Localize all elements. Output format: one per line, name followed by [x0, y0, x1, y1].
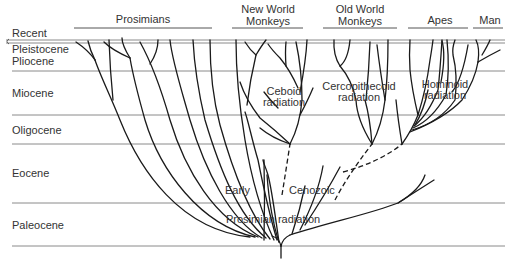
group-prosimians-label: Prosimians	[116, 13, 171, 25]
primate-phylogeny-diagram: Recent Pleistocene Pliocene Miocene Olig…	[0, 0, 511, 268]
cenozoic-label: Cenozoic	[289, 184, 335, 196]
group-headers: Prosimians New World Monkeys Old World M…	[74, 3, 503, 28]
epoch-pleistocene: Pleistocene	[12, 43, 69, 55]
group-owm-label-1: Old World	[336, 3, 385, 15]
bracket-mark	[7, 39, 9, 44]
epoch-labels: Recent Pleistocene Pliocene Miocene Olig…	[12, 27, 69, 231]
cercopithecoid-label-2: radiation	[338, 91, 380, 103]
epoch-oligocene: Oligocene	[12, 124, 62, 136]
ceboid-label-2: radiation	[263, 96, 305, 108]
group-man-label: Man	[479, 14, 500, 26]
hominoid-label-2: radiation	[424, 89, 466, 101]
epoch-miocene: Miocene	[12, 87, 54, 99]
group-nwm-label-2: Monkeys	[246, 15, 291, 27]
cercopithecoid-branches	[334, 40, 402, 200]
prosimian-branches	[76, 38, 279, 242]
early-label: Early	[225, 184, 251, 196]
epoch-eocene: Eocene	[12, 167, 49, 179]
epoch-recent: Recent	[12, 27, 47, 39]
group-nwm-label-1: New World	[241, 3, 295, 15]
group-apes-label: Apes	[427, 14, 453, 26]
group-owm-label-2: Monkeys	[338, 15, 383, 27]
epoch-pliocene: Pliocene	[12, 55, 54, 67]
prosimian-radiation-label: Prosimian radiation	[226, 213, 320, 225]
epoch-paleocene: Paleocene	[12, 219, 64, 231]
